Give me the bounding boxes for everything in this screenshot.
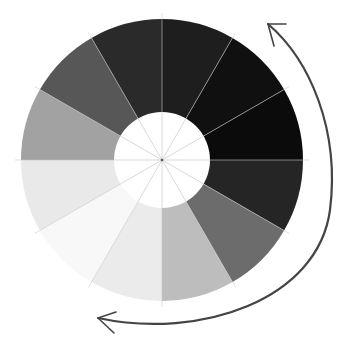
arrow-head-bottom — [98, 312, 116, 333]
center-point — [161, 159, 164, 162]
value-wheel-diagram — [0, 0, 350, 351]
